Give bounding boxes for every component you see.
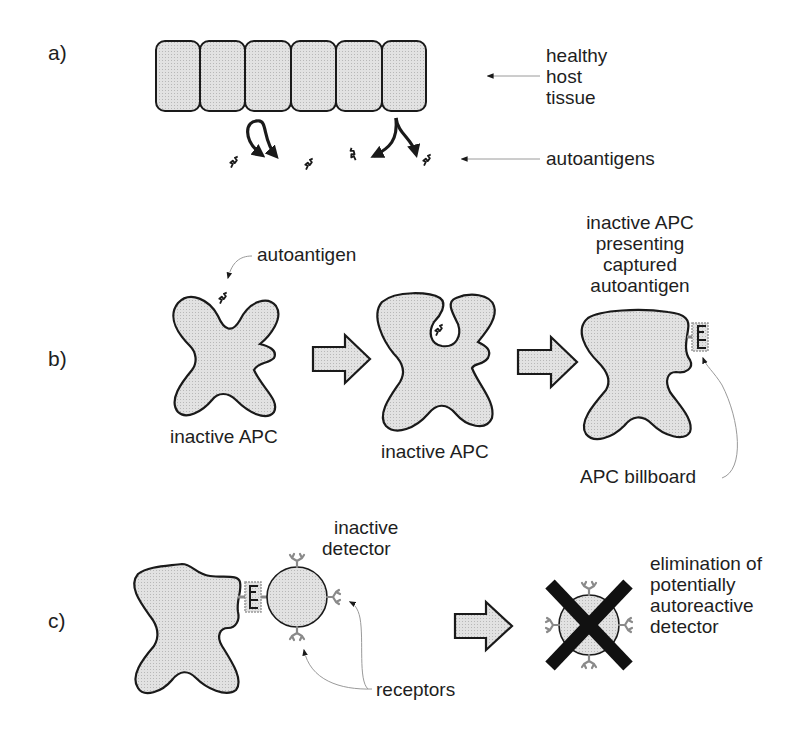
label-line: elimination of — [650, 553, 762, 574]
receptor-icon — [582, 655, 596, 668]
label-elimination: elimination of potentially autoreactive … — [650, 553, 762, 637]
pointer-autoantigen — [228, 256, 252, 278]
autoantigen-icon — [421, 155, 433, 166]
detector-cell — [267, 567, 327, 627]
apc-cell-2 — [377, 293, 494, 430]
process-arrow-2 — [518, 337, 577, 387]
eliminated-detector — [546, 582, 632, 668]
autoantigen-icon — [348, 148, 359, 160]
tissue-cell — [291, 41, 336, 111]
host-tissue-cells — [156, 41, 426, 111]
pointer-billboard — [703, 358, 737, 478]
label-line: inactive — [322, 517, 398, 538]
engulfed-autoantigen-icon — [433, 325, 445, 336]
label-line: detector — [650, 616, 762, 637]
release-arrows — [248, 118, 416, 156]
process-arrow-1 — [313, 335, 370, 383]
label-line: potentially — [650, 574, 762, 595]
label-inactive-apc-2: inactive APC — [381, 441, 489, 462]
pointer-receptor-right — [350, 602, 368, 689]
label-line: captured — [578, 254, 702, 275]
panel-a — [156, 41, 540, 170]
label-apc-presenting: inactive APC presenting captured autoant… — [578, 212, 702, 296]
label-line: autoreactive — [650, 595, 762, 616]
tissue-cell — [156, 41, 200, 111]
label-line: autoantigen — [578, 275, 702, 296]
autoantigen-icon — [228, 157, 240, 168]
apc-cell-c — [134, 564, 240, 693]
receptor-icon — [327, 590, 340, 604]
process-arrow-3 — [455, 602, 512, 650]
label-line: host — [546, 66, 607, 87]
label-line: healthy — [546, 45, 607, 66]
apc-billboard — [687, 323, 708, 351]
tissue-cell — [245, 41, 291, 111]
apc-cell-3 — [582, 310, 691, 439]
apc-cell-1 — [173, 297, 278, 416]
panel-label-c: c) — [48, 610, 66, 631]
panel-label-a: a) — [48, 42, 67, 63]
billboard-contact — [238, 582, 267, 612]
receptor-icon — [546, 618, 559, 632]
label-healthy-host-tissue: healthy host tissue — [546, 45, 607, 108]
tissue-cell — [382, 41, 426, 111]
label-receptors: receptors — [376, 679, 455, 700]
label-line: presenting — [578, 233, 702, 254]
label-inactive-apc-1: inactive APC — [170, 426, 278, 447]
label-autoantigen: autoantigen — [257, 244, 356, 265]
tissue-cell — [200, 41, 245, 111]
panel-c — [134, 554, 632, 693]
panel-label-b: b) — [48, 348, 67, 369]
label-apc-billboard: APC billboard — [580, 466, 696, 487]
receptor-icon — [619, 618, 632, 632]
autoantigen-icon — [303, 159, 315, 170]
receptor-icon — [290, 554, 304, 567]
receptor-icon — [582, 582, 596, 595]
label-line: detector — [322, 538, 398, 559]
receptor-icon — [290, 627, 304, 640]
label-inactive-detector: inactive detector — [322, 517, 398, 559]
label-line: inactive APC — [578, 212, 702, 233]
autoantigen-icon — [217, 293, 229, 304]
tissue-cell — [336, 41, 382, 111]
label-autoantigens: autoantigens — [546, 148, 655, 169]
label-line: tissue — [546, 87, 607, 108]
